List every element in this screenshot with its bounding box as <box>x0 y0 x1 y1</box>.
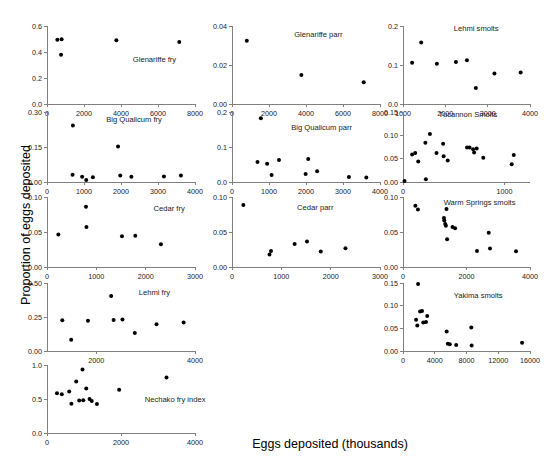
data-point <box>69 402 73 406</box>
data-point <box>304 172 308 176</box>
data-point <box>475 249 479 253</box>
data-point <box>269 249 273 253</box>
data-point <box>165 376 169 380</box>
data-point <box>428 132 432 136</box>
data-point <box>159 242 163 246</box>
data-point <box>492 72 496 76</box>
y-tick-label: 0.00 <box>384 263 398 272</box>
data-point <box>120 317 124 321</box>
panel-title: Big Qualicum fry <box>106 115 162 124</box>
y-tick-label: 0.2 <box>388 22 398 31</box>
data-point <box>81 398 85 402</box>
data-point <box>306 157 310 161</box>
panel-title: Lehmi smolts <box>454 24 499 33</box>
data-point <box>60 392 64 396</box>
x-tick-label: 8000 <box>459 356 475 365</box>
panel-title: Cedar parr <box>297 203 334 212</box>
data-point <box>403 179 407 183</box>
y-tick-label: 0.2 <box>32 74 42 83</box>
x-tick-label: 0 <box>45 438 49 447</box>
data-point <box>74 380 78 384</box>
data-point <box>454 343 458 347</box>
y-tick-label: 0.05 <box>384 324 398 333</box>
y-tick-label: 0.00 <box>28 347 42 356</box>
data-point <box>425 314 429 318</box>
y-tick-label: 0.0 <box>32 429 42 438</box>
data-point <box>55 391 59 395</box>
y-tick-label: 0.04 <box>213 22 227 31</box>
data-point <box>265 162 269 166</box>
data-point <box>182 320 186 324</box>
data-point <box>512 153 516 157</box>
data-point <box>84 225 88 229</box>
x-tick-label: 2000 <box>113 438 129 447</box>
data-point <box>420 309 424 313</box>
data-point <box>299 73 303 77</box>
data-point <box>488 246 492 250</box>
data-point <box>109 294 113 298</box>
data-point <box>416 159 420 163</box>
panel-glenariffe-parr: 0.000.020.0402000400060008000Glenariffe … <box>232 22 404 122</box>
y-tick-label: 0.6 <box>32 22 42 31</box>
plot-area: 0.000.050.100.1501000Tucannon Smolts <box>403 108 544 200</box>
data-point <box>67 390 71 394</box>
plot-area: 0.00.10.201000200030004000Big Qualicum p… <box>232 108 404 200</box>
y-tick-label: 0.10 <box>384 301 398 310</box>
data-point <box>424 177 428 181</box>
plot-area: 0.00.10.21000200030004000Lehmi smolts <box>403 22 544 122</box>
panel-title: Glenariffe fry <box>133 55 177 64</box>
data-point <box>415 324 419 328</box>
data-point <box>120 234 124 238</box>
data-point <box>520 341 524 345</box>
data-point <box>424 320 428 324</box>
data-point <box>71 124 75 128</box>
panel-title: Cedar fry <box>154 204 185 213</box>
data-point <box>416 282 420 286</box>
data-point <box>86 319 90 323</box>
data-point <box>347 175 351 179</box>
data-point <box>293 242 297 246</box>
panel-cedar-fry: 0.000.050.100100020003000Cedar fry <box>47 193 219 285</box>
y-tick-label: 0.10 <box>384 193 398 202</box>
data-point <box>435 62 439 66</box>
data-point <box>56 232 60 236</box>
data-point <box>270 173 274 177</box>
panel-lehmi-smolts: 0.00.10.21000200030004000Lehmi smolts <box>403 22 544 122</box>
y-tick-label: 0.15 <box>384 279 398 288</box>
data-point <box>475 146 479 150</box>
panel-tucannon-smolts: 0.000.050.100.1501000Tucannon Smolts <box>403 108 544 200</box>
data-point <box>81 367 85 371</box>
data-point <box>445 237 449 241</box>
data-point <box>441 142 445 146</box>
data-point <box>472 151 476 155</box>
data-point <box>468 145 472 149</box>
data-point <box>410 61 414 65</box>
plot-area: 0.000.050.100100020003000Cedar fry <box>47 193 219 285</box>
panel-title: Warm Springs smolts <box>444 198 516 207</box>
data-point <box>413 151 417 155</box>
data-point <box>60 37 64 41</box>
data-point <box>364 175 368 179</box>
data-point <box>444 224 448 228</box>
data-point <box>256 160 260 164</box>
data-point <box>510 162 514 166</box>
data-point <box>80 175 84 179</box>
data-point <box>179 173 183 177</box>
data-point <box>414 318 418 322</box>
data-point <box>133 234 137 238</box>
figure-y-axis-label: Proportion of eggs deposited <box>19 110 33 340</box>
data-point <box>84 178 88 182</box>
y-tick-label: 0.15 <box>384 108 398 117</box>
plot-area: 0.000.020.0402000400060008000Glenariffe … <box>232 22 404 122</box>
data-point <box>245 39 249 43</box>
y-tick-label: 0.1 <box>388 61 398 70</box>
data-point <box>60 318 64 322</box>
data-point <box>514 249 518 253</box>
figure-x-axis-label: Eggs deposited (thousands) <box>180 437 480 451</box>
plot-area: 0.000.150.3001000200030004000Big Qualicu… <box>47 108 219 200</box>
data-point <box>91 175 95 179</box>
y-tick-label: 0.10 <box>384 131 398 140</box>
y-tick-label: 0.00 <box>384 347 398 356</box>
plot-area: 0.000.050.100100020003000Cedar parr <box>232 193 404 285</box>
data-point <box>117 388 121 392</box>
